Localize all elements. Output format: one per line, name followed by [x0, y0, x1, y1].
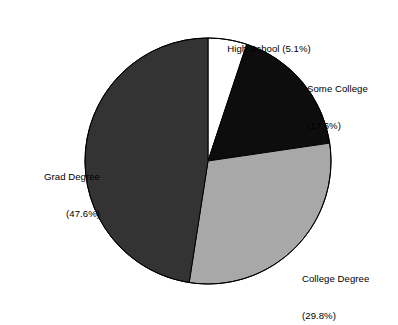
slice-label-grad-degree-line1: Grad Degree — [6, 171, 100, 183]
pie-slice-grad-degree — [85, 38, 208, 283]
slice-label-college-degree: College Degree (29.8%) — [302, 248, 396, 325]
slice-label-some-college-line1: Some College — [307, 83, 393, 95]
slice-label-college-degree-line1: College Degree — [302, 273, 396, 285]
slice-label-some-college: Some College (17.6%) — [307, 58, 393, 157]
slice-label-some-college-line2: (17.6%) — [307, 120, 393, 132]
slice-label-college-degree-line2: (29.8%) — [302, 310, 396, 322]
slice-label-grad-degree-line2: (47.6%) — [6, 208, 100, 220]
slice-label-grad-degree: Grad Degree (47.6%) — [6, 146, 100, 245]
slice-label-high-school-line1: High School (5.1%) — [209, 43, 329, 55]
